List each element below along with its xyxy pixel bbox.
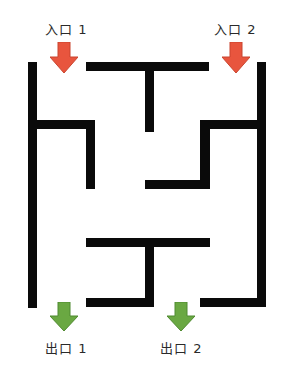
exit-2-label: 出口 2 bbox=[160, 341, 202, 357]
wall-right-inner-bottom bbox=[145, 180, 210, 189]
wall-right-outer bbox=[257, 62, 266, 307]
maze-diagram: 入口 1 入口 2 出口 1 出口 2 bbox=[0, 0, 284, 376]
wall-left-outer bbox=[28, 62, 37, 308]
wall-bottom-right bbox=[200, 298, 266, 307]
wall-bottom-left bbox=[86, 298, 154, 307]
exit-1-arrow-icon bbox=[50, 302, 78, 332]
wall-right-inner-vertical bbox=[200, 120, 210, 189]
entrance-1-arrow-icon bbox=[50, 42, 78, 74]
wall-left-inner-vertical bbox=[86, 120, 95, 189]
entrance-2-arrow-icon bbox=[222, 42, 250, 74]
entrance-1-label: 入口 1 bbox=[45, 22, 87, 38]
wall-top-stem bbox=[145, 62, 154, 132]
entrance-2-label: 入口 2 bbox=[214, 22, 256, 38]
wall-bottom-t-stem bbox=[145, 238, 154, 307]
exit-2-arrow-icon bbox=[167, 302, 195, 332]
exit-1-label: 出口 1 bbox=[45, 341, 87, 357]
